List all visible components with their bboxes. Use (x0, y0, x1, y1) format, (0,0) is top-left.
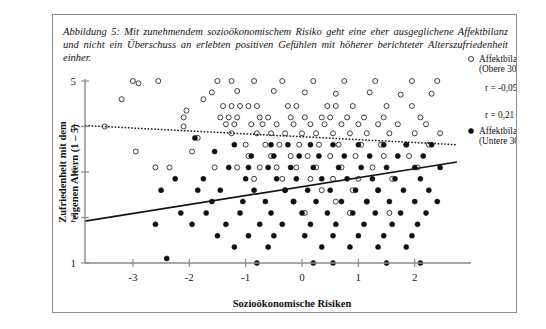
data-point (136, 81, 141, 86)
data-point (336, 142, 341, 147)
data-point (252, 79, 257, 84)
data-point (367, 154, 372, 159)
data-point (350, 210, 355, 215)
x-tick-label: 2 (412, 271, 418, 283)
data-point (238, 210, 243, 215)
data-point (370, 165, 375, 170)
data-point (381, 233, 386, 238)
x-axis-title: Sozioökonomische Risiken (233, 298, 352, 309)
data-point (381, 142, 386, 147)
data-point (359, 165, 364, 170)
data-point (342, 154, 347, 159)
data-point (319, 176, 324, 181)
data-point (274, 176, 279, 181)
data-point (130, 79, 135, 84)
data-point (387, 131, 392, 136)
data-point (316, 142, 321, 147)
data-point (280, 222, 285, 227)
data-point (277, 142, 282, 147)
data-point (246, 104, 251, 109)
x-tick-label: -3 (128, 271, 138, 283)
data-point (345, 176, 350, 181)
data-point (254, 104, 259, 109)
data-point (212, 165, 217, 170)
data-point (308, 222, 313, 227)
data-point (347, 245, 352, 250)
data-point (333, 104, 338, 109)
x-tick-label: 1 (356, 271, 362, 283)
data-point (305, 154, 310, 159)
data-point (249, 122, 254, 127)
data-point (156, 79, 161, 84)
data-point (367, 90, 372, 95)
data-point (364, 131, 369, 136)
data-point (339, 122, 344, 127)
data-point (271, 233, 276, 238)
legend-label-line2: (Untere 30%) (479, 136, 516, 147)
data-point (314, 131, 319, 136)
data-point (266, 165, 271, 170)
data-point (232, 142, 237, 147)
legend-label-line1: Affektbilanz (479, 126, 516, 136)
data-point (291, 199, 296, 204)
data-point (376, 122, 381, 127)
data-point (280, 79, 285, 84)
data-point (249, 154, 254, 159)
data-point (297, 142, 302, 147)
data-point (319, 188, 324, 193)
data-point (347, 131, 352, 136)
data-point (333, 222, 338, 227)
legend-r-value: r = -0,09 (485, 83, 516, 93)
data-point (353, 154, 358, 159)
data-point (418, 115, 423, 120)
data-point (195, 188, 200, 193)
data-point (356, 233, 361, 238)
data-point (438, 165, 443, 170)
data-point (274, 122, 279, 127)
data-point (226, 115, 231, 120)
data-point (302, 233, 307, 238)
data-point (384, 165, 389, 170)
data-point (285, 142, 290, 147)
data-point (328, 154, 333, 159)
data-point (260, 122, 265, 127)
data-point (235, 165, 240, 170)
data-point (387, 199, 392, 204)
data-point (252, 176, 257, 181)
data-point (167, 165, 172, 170)
data-point (407, 154, 412, 159)
data-point (215, 79, 220, 84)
data-point (418, 176, 423, 181)
data-point (331, 233, 336, 238)
data-point (376, 245, 381, 250)
data-point (269, 142, 274, 147)
data-point (212, 149, 217, 154)
data-point (235, 115, 240, 120)
data-point (370, 176, 375, 181)
data-point (356, 142, 361, 147)
data-point (409, 79, 414, 84)
legend-label-line2: (Obere 30%) (479, 64, 516, 75)
data-point (252, 188, 257, 193)
data-point (412, 199, 417, 204)
legend-marker-obere (469, 57, 474, 62)
data-point (305, 188, 310, 193)
data-point (362, 115, 367, 120)
data-point (294, 165, 299, 170)
y-tick-label: 1 (71, 257, 77, 269)
data-point (133, 149, 138, 154)
data-point (333, 91, 338, 96)
data-point (331, 131, 336, 136)
data-point (398, 210, 403, 215)
x-tick-label: 0 (299, 271, 305, 283)
data-point (271, 154, 276, 159)
fit-line-obere (85, 126, 457, 145)
data-point (438, 131, 443, 136)
data-point (178, 210, 183, 215)
data-point (257, 165, 262, 170)
data-point (266, 115, 271, 120)
data-point (424, 210, 429, 215)
data-point (331, 142, 336, 147)
data-point (353, 188, 358, 193)
data-point (415, 222, 420, 227)
